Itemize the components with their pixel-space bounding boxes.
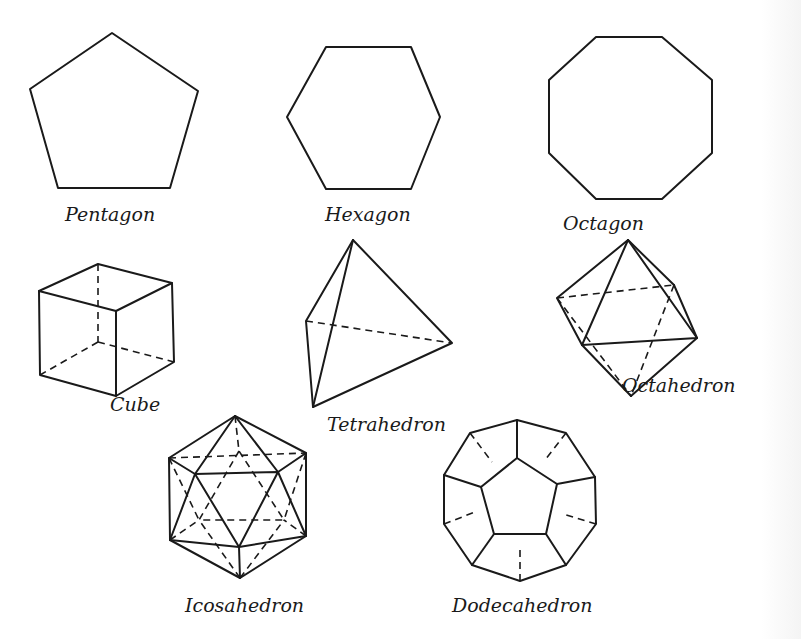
cube-shape — [39, 264, 174, 396]
dodecahedron-shape — [444, 420, 596, 581]
octahedron-shape — [557, 240, 697, 396]
polyhedra-diagram: Pentagon Hexagon Octagon Cube Tetrahedro… — [0, 0, 801, 639]
octagon-label: Octagon — [563, 212, 644, 234]
hexagon-shape — [287, 47, 440, 189]
octahedron-label: Octahedron — [622, 374, 736, 396]
cube-label: Cube — [110, 393, 160, 415]
icosahedron-label: Icosahedron — [184, 594, 304, 616]
tetrahedron-shape — [306, 240, 452, 407]
page-edge-bleed — [761, 0, 801, 639]
pentagon-label: Pentagon — [64, 203, 155, 225]
pentagon-shape — [30, 33, 198, 188]
icosahedron-shape — [169, 416, 306, 578]
octagon-shape — [549, 37, 712, 199]
tetrahedron-label: Tetrahedron — [327, 413, 446, 435]
dodecahedron-label: Dodecahedron — [451, 594, 592, 616]
hexagon-label: Hexagon — [324, 203, 411, 225]
